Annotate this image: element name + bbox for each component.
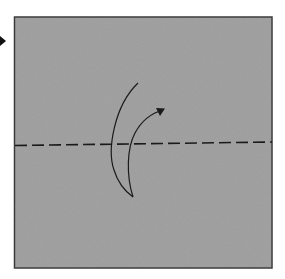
step-marker-icon (0, 36, 6, 46)
paper-texture (15, 18, 272, 268)
origami-diagram (0, 0, 285, 279)
